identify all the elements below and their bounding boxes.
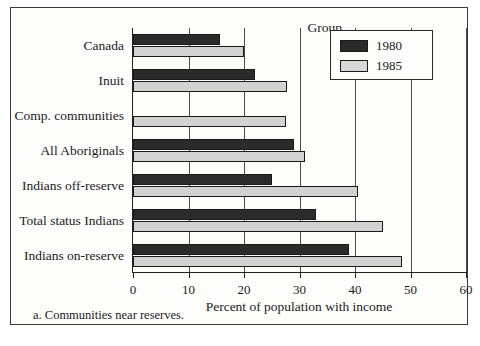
x-tick-30	[300, 272, 301, 278]
bar-1985-5	[133, 221, 383, 232]
category-label-2: Comp. communities	[15, 108, 125, 124]
category-label-1: Inuit	[99, 73, 125, 89]
x-tick-label-50: 50	[404, 282, 417, 298]
x-tick-50	[411, 272, 412, 278]
legend-item-1985: 1985	[340, 57, 432, 74]
gridline-60	[466, 28, 467, 272]
bar-1985-6	[133, 256, 402, 267]
x-tick-label-60: 60	[460, 282, 473, 298]
figure-footnote: a. Communities near reserves.	[33, 308, 184, 323]
bar-1985-3	[133, 151, 305, 162]
category-label-3: All Aboriginals	[40, 143, 124, 159]
x-tick-40	[355, 272, 356, 278]
bar-1985-2	[133, 116, 286, 127]
x-tick-0	[133, 272, 134, 278]
x-tick-label-40: 40	[349, 282, 362, 298]
category-label-column: CanadaInuitComp. communitiesAll Aborigin…	[11, 28, 128, 273]
x-tick-label-20: 20	[238, 282, 251, 298]
bar-1985-1	[133, 81, 287, 92]
x-tick-60	[466, 272, 467, 278]
bar-1980-4	[133, 174, 272, 185]
legend-swatch-1985	[340, 60, 368, 72]
bar-1980-3	[133, 139, 294, 150]
bar-1980-0	[133, 34, 220, 45]
x-tick-label-0: 0	[130, 282, 137, 298]
x-tick-label-10: 10	[182, 282, 195, 298]
gridline-30	[300, 28, 301, 272]
figure-panel: Group CanadaInuitComp. communitiesAll Ab…	[10, 7, 468, 325]
category-label-4: Indians off-reserve	[22, 178, 124, 194]
x-tick-20	[244, 272, 245, 278]
bar-1980-6	[133, 244, 349, 255]
bar-1980-5	[133, 209, 316, 220]
bar-1980-1	[133, 69, 255, 80]
category-label-5: Total status Indians	[19, 213, 124, 229]
gridline-10	[189, 28, 190, 272]
legend-item-1980: 1980	[340, 37, 432, 54]
chart-legend: 1980 1985	[330, 30, 433, 80]
x-tick-label-30: 30	[293, 282, 306, 298]
category-label-6: Indians on-reserve	[24, 248, 124, 264]
legend-label-1980: 1980	[376, 38, 402, 54]
legend-label-1985: 1985	[376, 58, 402, 74]
legend-swatch-1980	[340, 40, 368, 52]
gridline-20	[244, 28, 245, 272]
bar-1985-4	[133, 186, 358, 197]
bar-1985-0	[133, 46, 244, 57]
x-tick-10	[189, 272, 190, 278]
category-label-0: Canada	[84, 38, 124, 54]
